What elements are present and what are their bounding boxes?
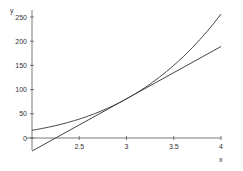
y-axis-label: y bbox=[10, 7, 14, 15]
y-tick-label: 100 bbox=[15, 86, 27, 93]
y-tick-label: 200 bbox=[15, 38, 27, 45]
tangent-line-series bbox=[32, 47, 221, 152]
y-tick-label: 250 bbox=[15, 14, 27, 21]
y-tick-label: 50 bbox=[19, 110, 27, 117]
y-tick-label: 0 bbox=[23, 135, 27, 142]
x-tick-label: 3.5 bbox=[169, 143, 179, 150]
axes: 0501001502002502.533.54 bbox=[15, 10, 223, 150]
x-tick-label: 2.5 bbox=[74, 143, 84, 150]
curve-series bbox=[32, 14, 221, 130]
x-tick-label: 4 bbox=[219, 143, 223, 150]
x-tick-label: 3 bbox=[125, 143, 129, 150]
x-axis-label: x bbox=[219, 156, 223, 163]
chart: 0501001502002502.533.54 y x bbox=[0, 0, 243, 171]
series-group bbox=[32, 14, 221, 151]
y-tick-label: 150 bbox=[15, 62, 27, 69]
